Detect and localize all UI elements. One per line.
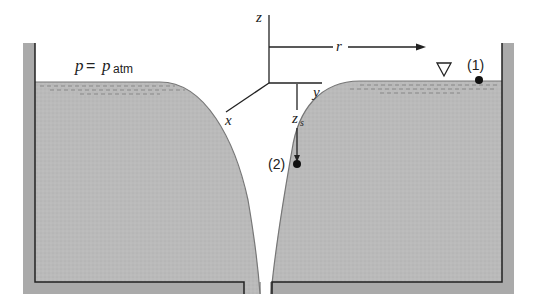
axis-r-label: r (336, 38, 342, 54)
axis-z-label: z (255, 9, 262, 25)
depth-zs-sub: s (300, 117, 304, 128)
r-arrowhead-icon (416, 44, 426, 51)
pressure-label-atm-sub: atm (113, 62, 133, 76)
point-1-marker (475, 76, 483, 84)
point-2-marker (293, 160, 301, 168)
left-wall (23, 43, 35, 294)
bottom-wall-right (270, 282, 514, 294)
triangle-down-icon (437, 63, 451, 76)
point-1-label: (1) (467, 57, 484, 73)
point-2-label: (2) (268, 156, 285, 172)
x-axis (226, 83, 269, 112)
vortex-diagram: p = p atm z r x y z s (1) (2) (0, 0, 537, 304)
pressure-label-patm: p (101, 56, 111, 75)
axis-x-label: x (224, 112, 232, 128)
axis-y-label: y (311, 84, 320, 100)
depth-zs-label: z (291, 110, 298, 126)
right-wall (502, 43, 514, 294)
bottom-wall-left (23, 282, 261, 294)
pressure-label-eq: = (86, 57, 95, 74)
fluid-right (271, 81, 502, 294)
pressure-label-p: p (74, 56, 84, 75)
